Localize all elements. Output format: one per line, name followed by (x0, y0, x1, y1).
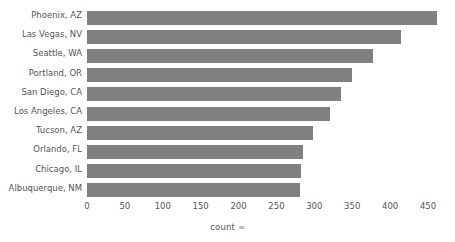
x-tick-label: 450 (420, 200, 436, 212)
bar[interactable] (87, 164, 301, 178)
bar-track (87, 126, 428, 140)
bar-row: San Diego, CA (87, 85, 428, 104)
bar-row: Chicago, IL (87, 162, 428, 181)
x-tick-label: 150 (193, 200, 209, 212)
x-axis-title-text: count (210, 222, 235, 232)
bar-track (87, 145, 428, 159)
bar-track (87, 87, 428, 101)
x-tick-label: 100 (155, 200, 171, 212)
x-axis-title-suffix-icon: ≡ (238, 223, 245, 232)
x-tick-label: 200 (230, 200, 246, 212)
bar-track (87, 49, 428, 63)
bar[interactable] (87, 87, 341, 101)
category-label: Tucson, AZ (36, 123, 82, 137)
category-label: Phoenix, AZ (31, 8, 82, 22)
bar-row: Portland, OR (87, 66, 428, 85)
bar-track (87, 30, 428, 44)
category-label: Albuquerque, NM (9, 181, 82, 195)
bar-row: Orlando, FL (87, 142, 428, 161)
category-label: Los Angeles, CA (14, 104, 82, 118)
bar-track (87, 183, 428, 197)
category-label: Seattle, WA (33, 46, 82, 60)
x-tick-label: 50 (119, 200, 130, 212)
x-tick-label: 250 (268, 200, 284, 212)
bar-chart-figure: Phoenix, AZLas Vegas, NVSeattle, WAPortl… (0, 0, 455, 242)
category-label: Las Vegas, NV (22, 27, 82, 41)
bar-track (87, 107, 428, 121)
x-axis-title: count≡ (0, 222, 455, 232)
bar[interactable] (87, 126, 313, 140)
bar[interactable] (87, 183, 300, 197)
bar-track (87, 68, 428, 82)
x-tick-label: 300 (306, 200, 322, 212)
bar[interactable] (87, 145, 303, 159)
x-axis: 050100150200250300350400450 (87, 200, 428, 214)
bar[interactable] (87, 30, 401, 44)
bar-track (87, 11, 428, 25)
bar[interactable] (87, 68, 352, 82)
category-label: San Diego, CA (21, 85, 82, 99)
bar-row: Seattle, WA (87, 46, 428, 65)
bar-row: Los Angeles, CA (87, 104, 428, 123)
x-tick-label: 350 (344, 200, 360, 212)
category-label: Orlando, FL (33, 142, 82, 156)
x-tick-label: 400 (382, 200, 398, 212)
x-tick-label: 0 (84, 200, 89, 212)
bar-row: Las Vegas, NV (87, 27, 428, 46)
category-label: Portland, OR (29, 66, 82, 80)
bar[interactable] (87, 49, 373, 63)
bar-row: Tucson, AZ (87, 123, 428, 142)
plot-area: Phoenix, AZLas Vegas, NVSeattle, WAPortl… (87, 8, 428, 200)
bar[interactable] (87, 107, 330, 121)
category-label: Chicago, IL (35, 162, 82, 176)
bar-row: Albuquerque, NM (87, 181, 428, 200)
bar[interactable] (87, 11, 437, 25)
bar-row: Phoenix, AZ (87, 8, 428, 27)
bar-track (87, 164, 428, 178)
